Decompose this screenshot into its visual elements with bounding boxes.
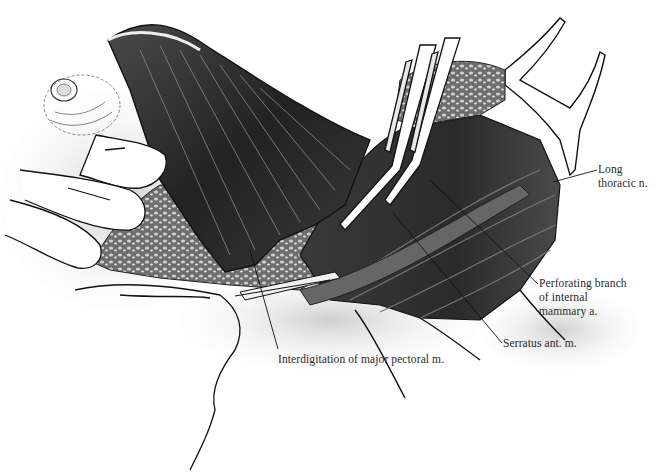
label-interdigitation: Interdigitation of major pectoral m. [278, 352, 444, 366]
label-line: Long [598, 162, 648, 176]
label-line: Interdigitation of major pectoral m. [278, 352, 444, 366]
label-line: Perforating branch [539, 276, 627, 290]
label-line: mammary a. [539, 304, 627, 318]
label-line: thoracic n. [598, 176, 648, 190]
illustration-stage: Long thoracic n. Perforating branch of i… [0, 0, 665, 475]
label-perforating-branch: Perforating branch of internal mammary a… [539, 276, 627, 318]
anatomy-drawing [0, 0, 665, 475]
label-long-thoracic-nerve: Long thoracic n. [598, 162, 648, 190]
leader-long-thoracic [553, 170, 597, 182]
label-line: of internal [539, 290, 627, 304]
label-line: Serratus ant. m. [503, 336, 577, 350]
label-serratus-anterior: Serratus ant. m. [503, 336, 577, 350]
